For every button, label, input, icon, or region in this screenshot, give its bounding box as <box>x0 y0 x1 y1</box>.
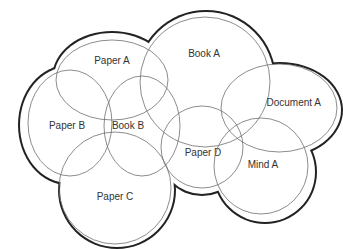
mind-a-label: Mind A <box>248 159 279 170</box>
book-a-label: Book A <box>188 48 220 59</box>
paper-b-label: Paper B <box>49 120 85 131</box>
paper-a-label: Paper A <box>94 55 130 66</box>
document-a-label: Document A <box>267 97 322 108</box>
book-b-label: Book B <box>112 120 145 131</box>
euler-diagram: Paper A Book A Paper B Book B Paper C Pa… <box>0 0 343 249</box>
paper-c-label: Paper C <box>97 191 134 202</box>
